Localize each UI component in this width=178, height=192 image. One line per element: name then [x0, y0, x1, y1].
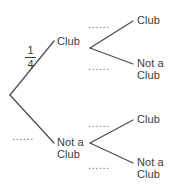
fraction-denominator: 4 [25, 59, 36, 70]
node-label-not-a-club-club: Club [137, 113, 160, 125]
branch-probability-club-to-club: ...... [88, 19, 110, 30]
branch-probability-club-to-not-a-club: ...... [88, 61, 110, 72]
branch-probability-root-to-club: 1 4 [25, 45, 36, 70]
node-label-not-a-club: Not a Club [57, 136, 84, 160]
probability-tree-diagram: Club Not a Club Club Not a Club Club Not… [0, 0, 178, 192]
node-label-club-not-a-club: Not a Club [137, 57, 164, 81]
fraction-numerator: 1 [25, 45, 36, 56]
branch-probability-root-to-not-a-club: ...... [12, 131, 34, 142]
node-label-club: Club [57, 35, 80, 47]
node-label-club-club: Club [137, 14, 160, 26]
branch-probability-not-a-club-to-club: ...... [88, 118, 110, 129]
node-label-not-a-club-not-a-club: Not a Club [137, 156, 164, 180]
branch-probability-not-a-club-to-not-a-club: ...... [88, 160, 110, 171]
